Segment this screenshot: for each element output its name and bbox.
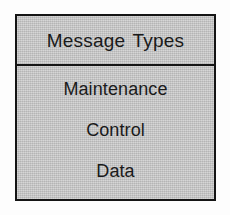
- table-header-label: Message Types: [47, 31, 184, 50]
- table-body-cell: Maintenance Control Data: [17, 66, 214, 199]
- table-row: Maintenance: [17, 80, 214, 99]
- table-row-label-data: Data: [96, 161, 134, 181]
- table-row-label-maintenance: Maintenance: [63, 79, 167, 99]
- figure-canvas: Message Types Maintenance Control Data: [0, 0, 230, 215]
- table-row: Control: [17, 121, 214, 140]
- message-types-table: Message Types Maintenance Control Data: [15, 14, 216, 201]
- table-row: Data: [17, 162, 214, 181]
- table-header-cell: Message Types: [17, 16, 214, 66]
- table-row-label-control: Control: [86, 120, 145, 140]
